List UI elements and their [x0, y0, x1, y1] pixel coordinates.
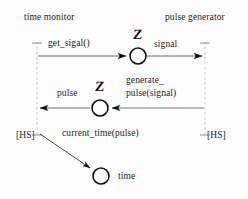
state-node-signal	[130, 48, 146, 64]
sequence-diagram-canvas: time monitor pulse generator get_sigal()…	[0, 0, 248, 199]
message-arrow-current-time	[40, 134, 90, 168]
message-label-generate-pulse-line2: pulse(signal)	[126, 88, 176, 99]
message-label-get-signal: get_sigal()	[48, 38, 90, 49]
terminator-label-left-hs: [HS]	[16, 130, 35, 141]
message-label-pulse: pulse	[57, 88, 78, 99]
lifeline-header-pulse-generator: pulse generator	[165, 12, 225, 23]
lifeline-header-time-monitor: time monitor	[24, 12, 75, 23]
state-node-pulse	[92, 100, 108, 116]
terminator-label-right-hs: [HS]	[207, 130, 226, 141]
state-label-time: time	[118, 171, 135, 182]
diagram-vector-layer	[0, 0, 248, 199]
state-node-time	[93, 168, 109, 184]
message-label-signal: signal	[154, 39, 177, 50]
message-label-generate-pulse-line1: generate_	[126, 75, 164, 86]
z-state-glyph-icon-pulse: Z	[94, 80, 105, 94]
message-label-current-time: current_time(pulse)	[62, 128, 139, 139]
z-state-glyph-icon-signal: Z	[132, 28, 143, 42]
